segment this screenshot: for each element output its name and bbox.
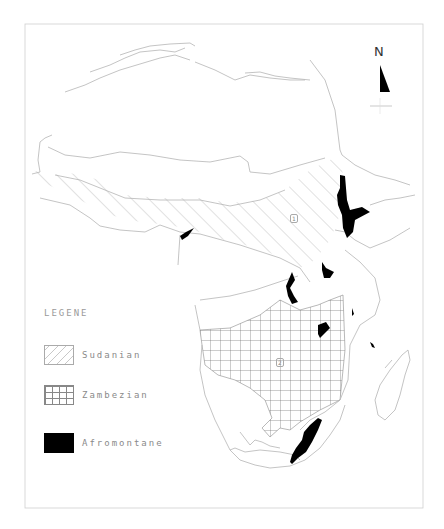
sudanian-swatch <box>44 345 74 365</box>
legend-item-zambezian: Zambezian <box>44 385 149 405</box>
north-label: N <box>374 44 384 59</box>
north-arrow <box>370 65 392 114</box>
legend-label-zambezian: Zambezian <box>82 390 149 400</box>
legend-label-afromontane: Afromontane <box>82 438 164 448</box>
zone-label-2: 2 <box>276 358 284 367</box>
zambezian-zone <box>200 295 345 437</box>
afromontane-swatch <box>44 433 74 453</box>
legend-item-sudanian: Sudanian <box>44 345 141 365</box>
legend-title: LEGENE <box>44 308 89 318</box>
zambezian-swatch <box>44 385 74 405</box>
sudanian-zone <box>32 155 345 268</box>
legend-label-sudanian: Sudanian <box>82 350 141 360</box>
legend-item-afromontane: Afromontane <box>44 433 164 453</box>
zone-label-1: 1 <box>290 214 298 223</box>
